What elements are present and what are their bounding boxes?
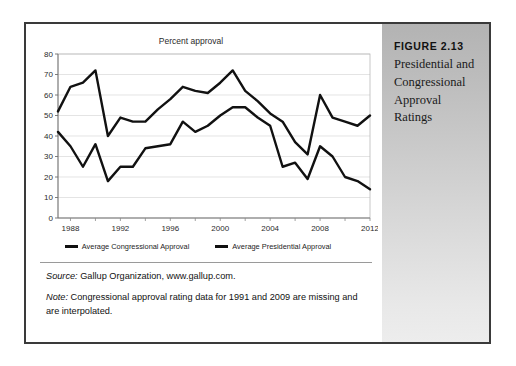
figure-notes: Source: Gallup Organization, www.gallup.… (46, 270, 362, 325)
legend-line-swatch-presidential (215, 245, 228, 248)
figure-number-label: FIGURE 2.13 (394, 40, 479, 52)
y-tick-label: 70 (44, 70, 53, 79)
chart-legend: Average Congressional Approval Average P… (26, 242, 370, 251)
y-tick-label: 40 (44, 132, 53, 141)
source-line: Source: Gallup Organization, www.gallup.… (46, 270, 362, 284)
figure-caption-inner: FIGURE 2.13 Presidential and Congression… (382, 24, 489, 127)
x-tick-label: 1988 (62, 224, 80, 233)
figure-caption-text: Presidential and Congressional Approval … (394, 56, 479, 127)
y-tick-label: 60 (44, 91, 53, 100)
note-label: Note: (46, 292, 68, 302)
legend-label-congressional: Average Congressional Approval (82, 242, 190, 251)
approval-line-chart: 0102030405060708019881992199620002004200… (32, 46, 378, 246)
y-tick-label: 10 (44, 193, 53, 202)
chart-container: Percent approval 01020304050607080198819… (26, 24, 386, 342)
note-line: Note: Congressional approval rating data… (46, 291, 362, 319)
x-tick-label: 1992 (112, 224, 130, 233)
x-tick-label: 1996 (161, 224, 179, 233)
y-tick-label: 80 (44, 50, 53, 59)
notes-divider (40, 262, 372, 263)
y-tick-label: 30 (44, 152, 53, 161)
source-value: Gallup Organization, www.gallup.com. (78, 271, 236, 281)
x-tick-label: 2008 (311, 224, 329, 233)
y-tick-label: 0 (49, 214, 54, 223)
legend-item-presidential: Average Presidential Approval (215, 242, 331, 251)
x-tick-label: 2000 (211, 224, 229, 233)
chart-title: Percent approval (26, 36, 356, 46)
figure-box: Percent approval 01020304050607080198819… (24, 22, 491, 344)
note-value: Congressional approval rating data for 1… (46, 292, 358, 316)
y-tick-label: 20 (44, 173, 53, 182)
x-tick-label: 2012 (361, 224, 378, 233)
x-tick-label: 2004 (261, 224, 279, 233)
legend-item-congressional: Average Congressional Approval (65, 242, 190, 251)
figure-caption-panel: FIGURE 2.13 Presidential and Congression… (382, 24, 489, 342)
source-label: Source: (46, 271, 78, 281)
y-tick-label: 50 (44, 111, 53, 120)
legend-label-presidential: Average Presidential Approval (232, 242, 331, 251)
figure-page: Percent approval 01020304050607080198819… (0, 0, 516, 366)
legend-line-swatch-congressional (65, 245, 78, 248)
series-line-presidential (58, 70, 370, 154)
